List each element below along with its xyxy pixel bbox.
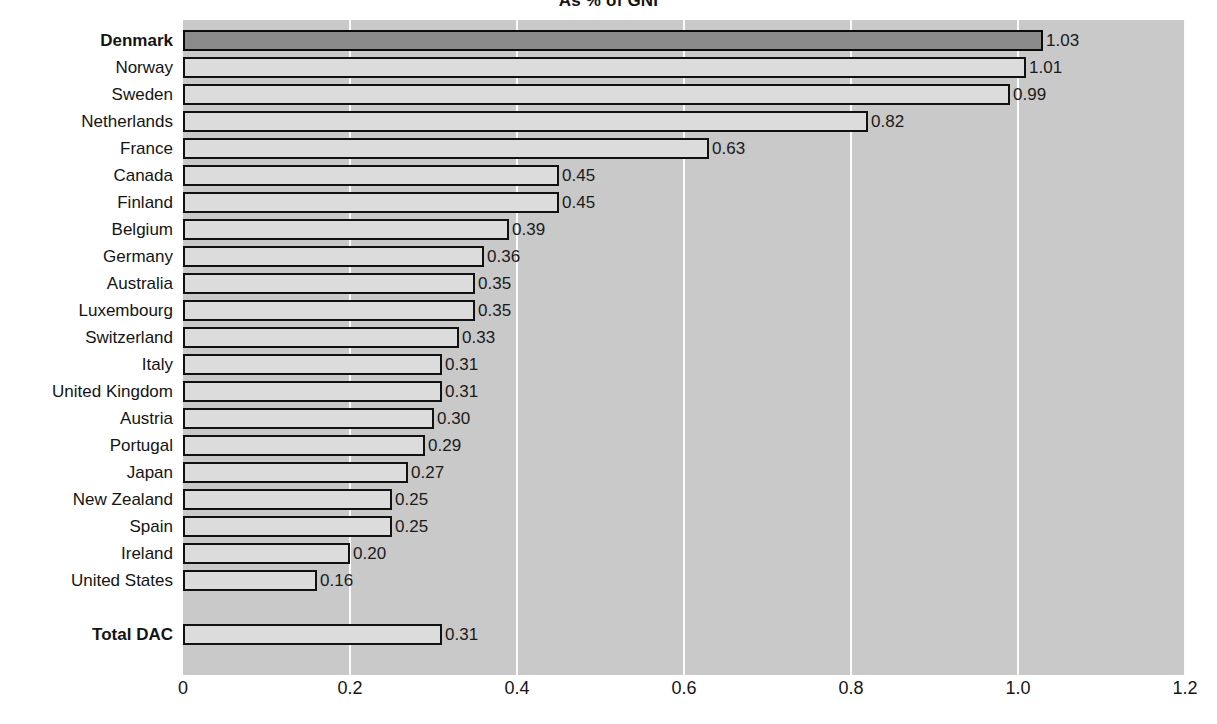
- bar: [183, 489, 392, 510]
- category-label: Italy: [0, 351, 178, 378]
- category-label: New Zealand: [0, 486, 178, 513]
- x-tick-label: 0.2: [337, 678, 362, 699]
- bar-row: 0.30: [183, 405, 1185, 432]
- bar-value-label: 0.27: [408, 462, 444, 483]
- plot-area: 1.031.010.990.820.630.450.450.390.360.35…: [183, 20, 1185, 675]
- bar-value-label: 0.63: [709, 138, 745, 159]
- x-tick-label: 0.6: [671, 678, 696, 699]
- x-tick-label: 1.0: [1005, 678, 1030, 699]
- bar-value-label: 0.99: [1010, 84, 1046, 105]
- bar: [183, 462, 408, 483]
- bar-row: 0.39: [183, 216, 1185, 243]
- bar-value-label: 0.31: [442, 381, 478, 402]
- bar-value-label: 0.33: [459, 327, 495, 348]
- bar: [183, 408, 434, 429]
- bar: [183, 192, 559, 213]
- category-label: Austria: [0, 405, 178, 432]
- category-label: Norway: [0, 54, 178, 81]
- bar-value-label: 1.01: [1026, 57, 1062, 78]
- bar-value-label: 0.39: [509, 219, 545, 240]
- bar-row: 0.31: [183, 351, 1185, 378]
- x-tick-label: 1.2: [1172, 678, 1197, 699]
- category-label: Australia: [0, 270, 178, 297]
- bar-row: 0.45: [183, 162, 1185, 189]
- bar-value-label: 0.45: [559, 165, 595, 186]
- category-label: Netherlands: [0, 108, 178, 135]
- bar-value-label: 0.35: [475, 300, 511, 321]
- category-label: Japan: [0, 459, 178, 486]
- bar-value-label: 0.16: [317, 570, 353, 591]
- category-label: France: [0, 135, 178, 162]
- bar-value-label: 0.31: [442, 624, 478, 645]
- bar: [183, 516, 392, 537]
- category-label: Canada: [0, 162, 178, 189]
- bar-value-label: 0.31: [442, 354, 478, 375]
- category-label: Denmark: [0, 27, 178, 54]
- bar-value-label: 0.45: [559, 192, 595, 213]
- category-label: Ireland: [0, 540, 178, 567]
- bar-value-label: 1.03: [1043, 30, 1079, 51]
- category-axis-labels: DenmarkNorwaySwedenNetherlandsFranceCana…: [0, 20, 178, 675]
- bar: [183, 543, 350, 564]
- bar-row: 0.82: [183, 108, 1185, 135]
- bar-value-label: 0.20: [350, 543, 386, 564]
- bar: [183, 165, 559, 186]
- bar-value-label: 0.29: [425, 435, 461, 456]
- bar-row: 0.63: [183, 135, 1185, 162]
- bar: [183, 246, 484, 267]
- x-tick-label: 0: [178, 678, 188, 699]
- bar-row: 0.27: [183, 459, 1185, 486]
- bar: [183, 435, 425, 456]
- bar: [183, 111, 868, 132]
- bar-value-label: 0.25: [392, 489, 428, 510]
- bar-row: 0.31: [183, 621, 1185, 648]
- bar: [183, 30, 1043, 51]
- bar-value-label: 0.82: [868, 111, 904, 132]
- category-label: Finland: [0, 189, 178, 216]
- category-label: United Kingdom: [0, 378, 178, 405]
- category-label: Germany: [0, 243, 178, 270]
- category-label: United States: [0, 567, 178, 594]
- bar: [183, 57, 1026, 78]
- x-tick-label: 0.4: [504, 678, 529, 699]
- bar-row: 1.01: [183, 54, 1185, 81]
- bar: [183, 570, 317, 591]
- bar-row: 0.33: [183, 324, 1185, 351]
- bar: [183, 273, 475, 294]
- bar-row: 0.36: [183, 243, 1185, 270]
- bar-row: 0.16: [183, 567, 1185, 594]
- bar-value-label: 0.30: [434, 408, 470, 429]
- category-label: Sweden: [0, 81, 178, 108]
- bar: [183, 219, 509, 240]
- x-tick-label: 0.8: [838, 678, 863, 699]
- bar-value-label: 0.36: [484, 246, 520, 267]
- bar: [183, 327, 459, 348]
- category-label: Belgium: [0, 216, 178, 243]
- bars-container: 1.031.010.990.820.630.450.450.390.360.35…: [183, 20, 1185, 675]
- category-label: Switzerland: [0, 324, 178, 351]
- bar: [183, 84, 1010, 105]
- category-label: Spain: [0, 513, 178, 540]
- bar: [183, 138, 709, 159]
- bar-row: 0.25: [183, 513, 1185, 540]
- bar-row: 0.99: [183, 81, 1185, 108]
- bar-row: 0.29: [183, 432, 1185, 459]
- bar-value-label: 0.25: [392, 516, 428, 537]
- bar-row: 0.31: [183, 378, 1185, 405]
- category-label: Portugal: [0, 432, 178, 459]
- bar-row: 0.20: [183, 540, 1185, 567]
- bar-value-label: 0.35: [475, 273, 511, 294]
- bar-row: 0.35: [183, 297, 1185, 324]
- bar: [183, 381, 442, 402]
- bar: [183, 354, 442, 375]
- bar: [183, 300, 475, 321]
- bar-row: 0.45: [183, 189, 1185, 216]
- bar-row: 0.25: [183, 486, 1185, 513]
- x-axis: 00.20.40.60.81.01.2: [183, 678, 1185, 708]
- bar-row: 1.03: [183, 27, 1185, 54]
- category-label: Total DAC: [0, 621, 178, 648]
- chart-title: As % of GNI: [0, 0, 1217, 8]
- bar: [183, 624, 442, 645]
- bar-row: 0.35: [183, 270, 1185, 297]
- category-label: Luxembourg: [0, 297, 178, 324]
